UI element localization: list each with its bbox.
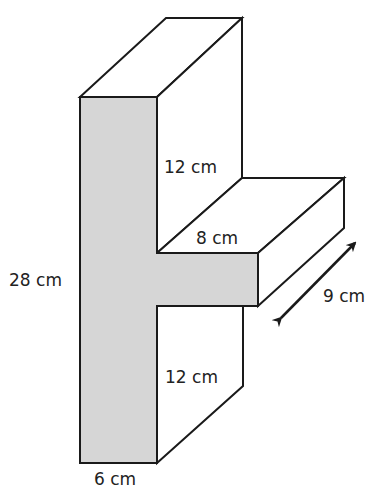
label-upper-height: 12 cm bbox=[164, 157, 217, 177]
label-height-total: 28 cm bbox=[9, 270, 62, 290]
label-arm-width: 8 cm bbox=[196, 228, 238, 248]
label-depth: 9 cm bbox=[323, 286, 365, 306]
label-stem-width: 6 cm bbox=[94, 469, 136, 489]
label-lower-height: 12 cm bbox=[165, 367, 218, 387]
t-prism-diagram bbox=[0, 0, 378, 493]
